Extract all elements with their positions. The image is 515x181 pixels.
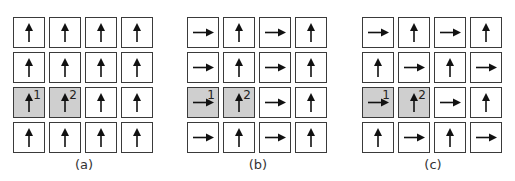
grid-cell [223, 52, 255, 83]
cell-index-label: 2 [69, 89, 77, 101]
arrow-up-icon [363, 53, 393, 82]
grid-cell [295, 17, 327, 48]
grid: 12 [13, 17, 155, 155]
grid-cell [49, 122, 81, 153]
arrow-up-icon [14, 123, 44, 152]
arrow-right-icon [188, 123, 218, 152]
arrow-up-icon [86, 88, 116, 117]
arrow-up-icon [122, 123, 152, 152]
grid-cell [259, 17, 291, 48]
arrow-right-icon [363, 18, 393, 47]
grid-cell [85, 52, 117, 83]
arrow-up-icon [122, 88, 152, 117]
grid-cell [13, 122, 45, 153]
grid-cell [259, 122, 291, 153]
grid-cell [259, 52, 291, 83]
arrow-right-icon [471, 53, 501, 82]
cell-index-label: 1 [382, 89, 390, 101]
grid-cell [121, 87, 153, 118]
grid-cell [398, 52, 430, 83]
highlighted-cell: 2 [49, 87, 81, 118]
grid-cell [362, 122, 394, 153]
grid-cell [259, 87, 291, 118]
arrow-right-icon [399, 123, 429, 152]
grid-cell [434, 17, 466, 48]
arrow-up-icon [471, 88, 501, 117]
grid-cell [434, 122, 466, 153]
arrow-up-icon [435, 53, 465, 82]
cell-index-label: 1 [33, 89, 41, 101]
cell-index-label: 1 [207, 89, 215, 101]
highlighted-cell: 1 [362, 87, 394, 118]
arrow-up-icon [86, 53, 116, 82]
grid-cell [434, 52, 466, 83]
grid: 12 [187, 17, 329, 155]
arrow-up-icon [296, 88, 326, 117]
grid-cell [121, 122, 153, 153]
grid-cell [187, 52, 219, 83]
arrow-right-icon [188, 18, 218, 47]
arrow-up-icon [296, 53, 326, 82]
arrow-up-icon [224, 53, 254, 82]
grid-cell [85, 87, 117, 118]
grid-cell [187, 122, 219, 153]
arrow-right-icon [260, 18, 290, 47]
arrow-up-icon [50, 53, 80, 82]
arrow-up-icon [50, 123, 80, 152]
arrow-up-icon [296, 123, 326, 152]
grid-cell [398, 122, 430, 153]
arrow-up-icon [224, 18, 254, 47]
arrow-right-icon [260, 123, 290, 152]
arrow-up-icon [86, 123, 116, 152]
arrow-up-icon [14, 53, 44, 82]
grid-cell [398, 17, 430, 48]
highlighted-cell: 1 [187, 87, 219, 118]
arrow-right-icon [435, 18, 465, 47]
grid-cell [85, 122, 117, 153]
arrow-up-icon [363, 123, 393, 152]
grid-cell [49, 17, 81, 48]
arrow-up-icon [122, 53, 152, 82]
arrow-right-icon [399, 53, 429, 82]
arrow-right-icon [471, 123, 501, 152]
highlighted-cell: 1 [13, 87, 45, 118]
arrow-up-icon [435, 123, 465, 152]
arrow-up-icon [471, 18, 501, 47]
arrow-up-icon [224, 123, 254, 152]
cell-index-label: 2 [418, 89, 426, 101]
arrow-up-icon [399, 18, 429, 47]
panel-a: 12 (a) [13, 17, 155, 155]
grid-cell [295, 87, 327, 118]
panel-caption: (c) [362, 157, 504, 172]
grid-cell [362, 17, 394, 48]
grid-cell [13, 17, 45, 48]
grid-cell [470, 122, 502, 153]
grid-cell [470, 52, 502, 83]
grid-cell [121, 52, 153, 83]
grid-cell [13, 52, 45, 83]
grid-cell [223, 17, 255, 48]
grid-cell [187, 17, 219, 48]
grid-cell [121, 17, 153, 48]
arrow-right-icon [260, 53, 290, 82]
arrow-right-icon [260, 88, 290, 117]
arrow-up-icon [14, 18, 44, 47]
grid-cell [223, 122, 255, 153]
grid-cell [295, 52, 327, 83]
highlighted-cell: 2 [223, 87, 255, 118]
grid-cell [470, 87, 502, 118]
grid: 12 [362, 17, 504, 155]
panel-caption: (a) [13, 157, 155, 172]
arrow-up-icon [296, 18, 326, 47]
arrow-right-icon [188, 53, 218, 82]
panel-caption: (b) [187, 157, 329, 172]
grid-cell [362, 52, 394, 83]
grid-cell [434, 87, 466, 118]
panel-b: 12 (b) [187, 17, 329, 155]
cell-index-label: 2 [243, 89, 251, 101]
arrow-right-icon [435, 88, 465, 117]
grid-cell [470, 17, 502, 48]
grid-cell [85, 17, 117, 48]
highlighted-cell: 2 [398, 87, 430, 118]
grid-cell [295, 122, 327, 153]
